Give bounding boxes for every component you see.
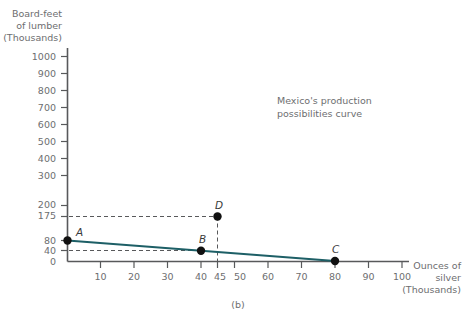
annotation-line2: possibilities curve — [277, 108, 362, 119]
x-tick-label-70: 70 — [295, 271, 307, 282]
data-point-label-d: D — [215, 199, 223, 211]
x-tick-label-100: 100 — [393, 271, 411, 282]
y-tick-label-175: 175 — [38, 210, 56, 221]
y-tick-label-500: 500 — [38, 136, 56, 147]
y-axis-title-line2: of lumber — [16, 20, 62, 31]
data-point-label-c: C — [332, 243, 340, 255]
data-point-label-a: A — [75, 226, 83, 238]
x-tick-label-20: 20 — [128, 271, 140, 282]
x-tick-label-30: 30 — [161, 271, 173, 282]
y-axis-ticks: 1000 900 800 700 600 500 400 300 200 175… — [32, 51, 68, 267]
x-axis-ticks: 10 20 30 40 45 50 60 70 80 90 100 — [94, 262, 411, 283]
y-tick-label-400: 400 — [38, 153, 56, 164]
annotation-line1: Mexico's production — [277, 95, 372, 106]
y-tick-label-600: 600 — [38, 119, 56, 130]
data-point-b — [197, 247, 205, 255]
data-point-a — [63, 236, 71, 244]
y-tick-label-900: 900 — [38, 68, 56, 79]
y-axis-title-line3: (Thousands) — [3, 32, 62, 43]
x-tick-label-45: 45 — [214, 271, 226, 282]
figure-caption: (b) — [231, 299, 244, 310]
x-tick-label-90: 90 — [362, 271, 374, 282]
y-tick-label-0: 0 — [50, 256, 56, 267]
y-tick-label-300: 300 — [38, 170, 56, 181]
y-tick-label-800: 800 — [38, 85, 56, 96]
y-tick-label-40: 40 — [44, 245, 56, 256]
x-axis-title-line1: Ounces of — [413, 260, 461, 271]
x-tick-label-80: 80 — [329, 271, 341, 282]
y-tick-label-700: 700 — [38, 102, 56, 113]
x-axis-title-line3: (Thousands) — [402, 284, 461, 295]
x-tick-label-40: 40 — [195, 271, 207, 282]
y-tick-label-200: 200 — [38, 199, 56, 210]
data-points: A B C D — [63, 199, 340, 265]
guide-lines — [62, 217, 218, 262]
x-axis-title-line2: silver — [435, 272, 461, 283]
y-axis-title-line1: Board-feet — [12, 8, 62, 19]
y-axis-title: Board-feet of lumber (Thousands) — [3, 8, 62, 43]
x-tick-label-10: 10 — [94, 271, 106, 282]
data-point-label-b: B — [199, 233, 206, 245]
x-tick-label-50: 50 — [234, 271, 246, 282]
data-point-d — [213, 212, 221, 220]
y-tick-label-1000: 1000 — [32, 51, 56, 62]
data-point-c — [331, 257, 339, 265]
production-possibilities-chart: Board-feet of lumber (Thousands) 1000 90… — [0, 0, 463, 314]
x-axis-title: Ounces of silver (Thousands) — [402, 260, 461, 295]
x-tick-label-60: 60 — [262, 271, 274, 282]
curve-annotation: Mexico's production possibilities curve — [277, 95, 372, 119]
